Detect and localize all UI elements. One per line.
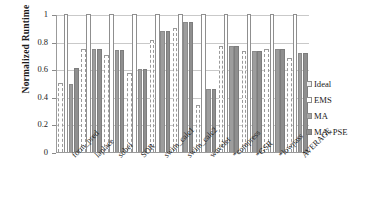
bar-ma-pse-lowpass [280,49,285,153]
legend-item-ems: EMS [306,92,376,108]
bar-ma-SOR [138,69,143,152]
ma-swatch-icon [306,113,312,119]
bar-ma-pse-sobel [120,50,125,152]
bar-ems-formpred [64,14,69,152]
bar-ideal-swimcalc1 [150,40,155,152]
bar-ideal-lowpass [264,49,269,152]
y-tick-label: 0.2 [14,119,48,129]
bar-ideal-swimcalc2 [173,28,178,152]
legend-label: MA+PSE [314,127,348,137]
bar-ideal-formpred [58,83,63,152]
bar-group [217,15,240,152]
bar-ma-pse-swimcalc1 [166,31,171,152]
bar-ems-swimcalc1 [155,14,160,152]
y-tick-label: 0.8 [14,37,48,47]
bar-ems-SOR [132,14,137,152]
bar-ems-AVERAGE [293,14,298,152]
bar-ideal-compress [219,46,224,152]
bar-ems-compress [224,14,229,152]
y-tick-label: 0.6 [14,64,48,74]
chart-legend: IdealEMSMAMA+PSE [306,76,376,140]
bar-ma-formpred [69,84,74,152]
bar-ma-pse-SOR [143,69,148,152]
legend-label: Ideal [314,79,331,89]
legend-item-ma: MA [306,108,376,124]
legend-label: MA [314,111,328,121]
legend-label: EMS [314,95,332,105]
bar-group [263,15,286,152]
y-tick-label: 0 [14,147,48,157]
legend-item-ideal: Ideal [306,76,376,92]
bar-ma-pse-formpred [74,68,79,152]
bar-group [126,15,149,152]
bar-ems-lowpass [270,14,275,152]
chart-root: Normalized Runtime 00.20.40.60.81 form_p… [0,0,377,211]
bar-ems-GSR [247,14,252,152]
ideal-swatch-icon [306,81,312,87]
y-tick-label: 1 [14,9,48,19]
bar-ma-swimcalc1 [160,31,165,152]
bar-group [149,15,172,152]
bar-ems-sobel [109,14,114,152]
bar-group [103,15,126,152]
legend-item-ma-pse: MA+PSE [306,124,376,140]
y-tick-label: 0.4 [14,92,48,102]
ma-pse-swatch-icon [306,129,312,135]
ems-swatch-icon [306,97,312,103]
x-axis-tick-labels: form_predlaplacesobelSORswim_calc1swim_c… [56,153,309,209]
bar-ma-lowpass [275,49,280,153]
bar-ma-pse-wavelet [212,89,217,152]
bar-ma-sobel [115,50,120,152]
bar-group [57,15,80,152]
bar-ma-pse-compress [234,46,239,152]
bar-ma-compress [229,46,234,152]
